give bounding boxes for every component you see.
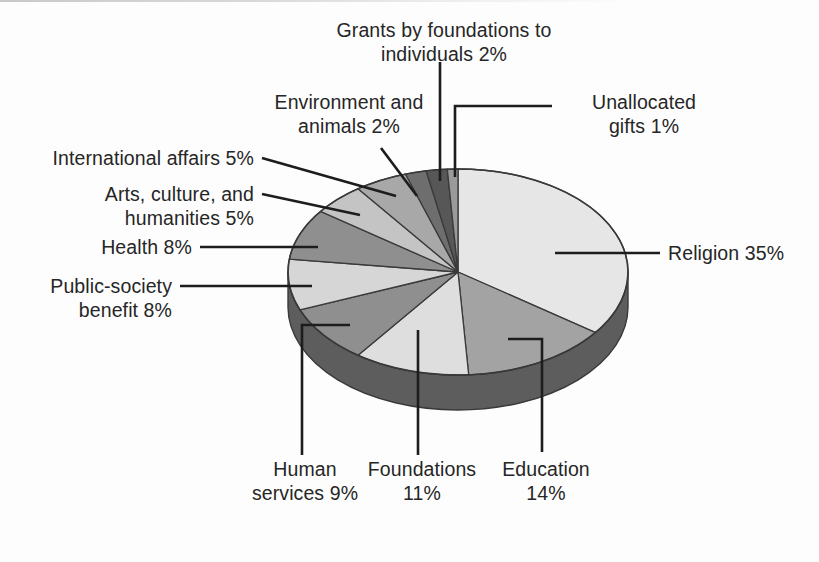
label-public-society-benefit: Public-society benefit 8%	[10, 274, 172, 322]
leader-line-international-affairs	[262, 158, 396, 196]
label-grants-by-foundations-to-individuals: Grants by foundations to individuals 2%	[306, 18, 582, 66]
label-education: Education 14%	[486, 457, 606, 505]
label-international-affairs: International affairs 5%	[10, 146, 254, 170]
label-environment-and-animals: Environment and animals 2%	[256, 90, 442, 138]
pie-slices	[288, 169, 628, 375]
label-unallocated-gifts: Unallocated gifts 1%	[556, 90, 732, 138]
label-human-services: Human services 9%	[238, 457, 372, 505]
label-arts-culture-and-humanities: Arts, culture, and humanities 5%	[10, 182, 254, 230]
label-religion: Religion 35%	[668, 241, 818, 265]
leader-line-unallocated-gifts	[455, 106, 552, 177]
label-health: Health 8%	[10, 235, 192, 259]
label-foundations: Foundations 11%	[356, 457, 488, 505]
chart-page: Grants by foundations to individuals 2% …	[0, 0, 819, 562]
